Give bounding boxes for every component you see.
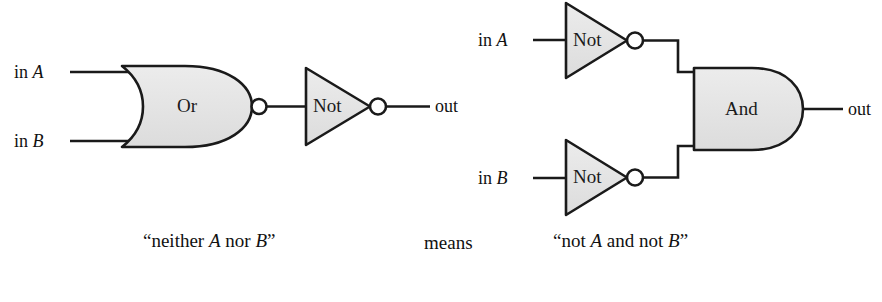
not-gate-output-bubble-icon-bottom-right xyxy=(627,170,643,186)
wire-not-bottom-to-and xyxy=(643,146,694,178)
or-gate-output-bubble-icon xyxy=(252,99,267,114)
not-gate-output-bubble-icon-top-right xyxy=(627,33,643,49)
input-label-a-right: in A xyxy=(478,31,508,49)
not-gate-label-top-right: Not xyxy=(573,30,602,49)
and-gate-label: And xyxy=(725,99,758,118)
figure-caption: FIGURE 1.28 Technicians and engineers us… xyxy=(0,268,882,302)
output-label-right: out xyxy=(848,100,871,118)
logic-gate-diagram xyxy=(0,0,882,302)
right-phrase: “not A and not B” xyxy=(553,231,688,250)
input-label-b-left: in B xyxy=(14,132,44,150)
means-connector: means xyxy=(424,233,473,252)
output-label-left: out xyxy=(435,97,458,115)
not-gate-label-left: Not xyxy=(313,96,342,115)
input-label-b-right: in B xyxy=(478,169,508,187)
input-label-a-left: in A xyxy=(14,63,44,81)
figure-1-28: in A in B Or Not out in A in B Not Not A… xyxy=(0,0,882,302)
not-gate-label-bottom-right: Not xyxy=(573,167,602,186)
or-gate-label: Or xyxy=(177,96,197,115)
not-gate-output-bubble-icon-left xyxy=(370,99,386,115)
left-phrase: “neither A nor B” xyxy=(143,231,275,250)
wire-not-top-to-and xyxy=(643,41,694,73)
